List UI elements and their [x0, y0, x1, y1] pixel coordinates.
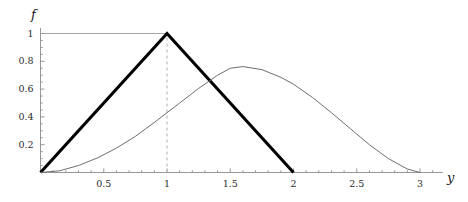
plot-figure: f y 0.20.40.60.81 0.511.522.53 — [0, 0, 468, 202]
y-tick-label: 0.6 — [8, 83, 34, 94]
y-tick-label: 0.8 — [8, 55, 34, 66]
y-tick-label: 0.2 — [8, 139, 34, 150]
series-smooth-density — [41, 67, 421, 173]
y-tick-label: 0.4 — [8, 111, 34, 122]
x-axis-title: y — [447, 170, 454, 185]
plot-canvas — [0, 0, 468, 202]
x-tick-label: 2 — [279, 178, 309, 189]
x-tick-label: 3 — [405, 178, 435, 189]
y-tick-label: 1 — [8, 28, 34, 39]
x-tick-label: 1 — [152, 178, 182, 189]
x-tick-label: 0.5 — [89, 178, 119, 189]
x-tick-label: 1.5 — [215, 178, 245, 189]
x-tick-label: 2.5 — [342, 178, 372, 189]
y-axis-title: f — [31, 7, 36, 22]
